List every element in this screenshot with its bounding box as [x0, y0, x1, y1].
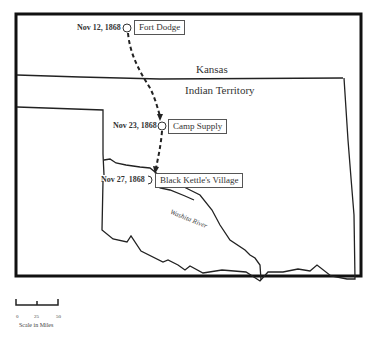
scale-tick-0: 0: [16, 314, 19, 319]
fort-dodge-marker[interactable]: [123, 24, 131, 32]
kansas-border: [17, 75, 343, 79]
camp-supply-marker[interactable]: [158, 122, 166, 130]
black-kettle-date: Nov 27, 1868: [101, 175, 145, 184]
route-arrow-1: [157, 114, 163, 121]
fort-dodge-label[interactable]: Fort Dodge: [134, 20, 185, 35]
route-segment-2: [156, 131, 162, 168]
map-frame: [16, 14, 361, 276]
map-container: Nov 12, 1868 Fort Dodge Nov 23, 1868 Cam…: [0, 0, 375, 340]
scale-title: Scale in Miles: [19, 322, 53, 328]
kansas-label: Kansas: [196, 63, 228, 75]
camp-supply-label[interactable]: Camp Supply: [168, 119, 227, 134]
territory-west-border: [17, 107, 104, 175]
black-kettle-label[interactable]: Black Kettle's Village: [155, 173, 243, 188]
fort-dodge-date: Nov 12, 1868: [77, 23, 121, 32]
scale-tick-25: 25: [34, 314, 39, 319]
route-segment-1: [128, 33, 160, 116]
map-graphics: [0, 0, 375, 340]
camp-supply-date: Nov 23, 1868: [113, 121, 157, 130]
scale-tick-50: 50: [56, 314, 61, 319]
indian-territory-label: Indian Territory: [185, 84, 255, 96]
scale-bar: [16, 299, 58, 305]
black-kettle-marker[interactable]: [148, 176, 152, 184]
